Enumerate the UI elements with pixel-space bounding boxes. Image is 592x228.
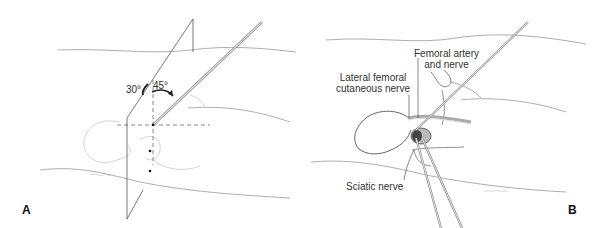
panel-label-a: A bbox=[22, 203, 31, 217]
panel-label-b: B bbox=[568, 203, 577, 217]
label-femoral-artery: Femoral artery and nerve bbox=[414, 48, 479, 70]
label-lateral-femoral-cutaneous-nerve: Lateral femoral cutaneous nerve bbox=[336, 72, 410, 94]
label-lateral-femoral-line2: cutaneous nerve bbox=[336, 83, 410, 94]
panel-a-illustration bbox=[0, 0, 296, 228]
label-sciatic-nerve: Sciatic nerve bbox=[346, 181, 403, 192]
panel-b-illustration bbox=[296, 0, 592, 228]
panel-a: 30° 45° A bbox=[0, 0, 296, 228]
panel-b: Femoral artery and nerve Lateral femoral… bbox=[296, 0, 592, 228]
label-femoral-artery-line1: Femoral artery bbox=[414, 48, 479, 59]
angle-label-30: 30° bbox=[126, 84, 141, 95]
label-lateral-femoral-line1: Lateral femoral bbox=[336, 72, 410, 83]
label-femoral-artery-line2: and nerve bbox=[414, 59, 479, 70]
angle-label-45: 45° bbox=[153, 80, 168, 91]
